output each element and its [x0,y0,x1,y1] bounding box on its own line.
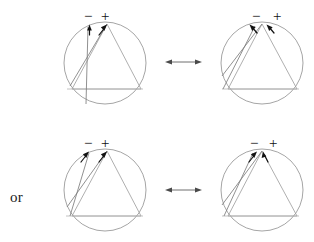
chord-b [223,26,255,89]
chord-a [70,24,107,86]
pointer-minus [250,25,258,34]
minus-sign: − [252,8,260,24]
double-arrow-bottom [165,188,202,193]
plus-sign: + [273,8,281,24]
circle-outline [64,22,146,104]
inscribed-triangle [228,24,297,89]
plus-sign: + [101,8,109,24]
panel-top-right: − + [221,8,303,104]
panel-top-left: − + [64,8,146,104]
minus-sign: − [250,135,258,151]
inscribed-triangle [72,24,141,89]
plus-sign: + [269,135,277,151]
pointer-plus [99,25,107,36]
pointer-plus [262,152,268,163]
double-arrow-top [165,60,202,65]
chord-a [222,151,262,205]
panel-bottom-right: − + [221,135,303,231]
inscribed-triangle-figure: − + − + [0,0,314,242]
chord-b [86,27,88,104]
circle-outline [221,22,303,104]
pointer-plus [99,152,107,163]
panel-bottom-left: − + [64,135,146,231]
chord-b [70,153,89,216]
pointer-plus [267,25,275,34]
plus-sign: + [101,135,109,151]
circle-outline [64,149,146,231]
minus-sign: − [84,135,92,151]
minus-sign: − [84,8,92,24]
